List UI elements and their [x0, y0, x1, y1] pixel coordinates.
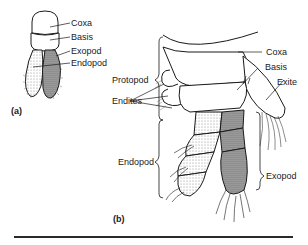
diagram-canvas [0, 0, 308, 245]
bottom-rule [14, 236, 293, 238]
label-b-basis: Basis [265, 62, 287, 72]
caption-b: (b) [113, 214, 125, 224]
a-coxa-segment [32, 11, 58, 35]
label-b-exite: Exite [277, 77, 297, 87]
a-endopod-ramus [26, 50, 43, 97]
label-b-endites: Endites [112, 96, 142, 106]
b-endopod-seg4 [178, 172, 206, 196]
caption-a: (a) [11, 106, 22, 116]
a-exopod-ramus [42, 50, 60, 98]
endopod-brace [155, 120, 163, 198]
figure-b-limb [130, 32, 286, 222]
label-a-coxa: Coxa [71, 18, 92, 28]
label-b-exopod: Exopod [266, 171, 297, 181]
label-a-endopod: Endopod [71, 58, 107, 68]
b-endopod-seg2 [186, 132, 220, 156]
label-a-basis: Basis [71, 32, 93, 42]
label-b-protopod: Protopod [112, 75, 149, 85]
b-basis-segment [179, 82, 247, 112]
b-endopod-seg1 [194, 112, 222, 135]
label-b-coxa: Coxa [266, 47, 287, 57]
figure-a-limb [23, 11, 70, 99]
a-basis-segment [31, 33, 59, 51]
label-b-endopod: Endopod [118, 157, 154, 167]
label-a-exopod: Exopod [71, 46, 102, 56]
b-exopod-seg3 [221, 148, 248, 194]
